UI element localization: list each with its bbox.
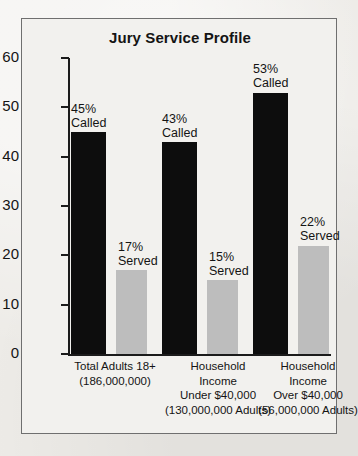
y-tick-label: 50 <box>0 97 19 114</box>
bar-served-group-3[interactable] <box>298 246 329 355</box>
category-label-group-1: Total Adults 18+ (186,000,000) <box>60 359 170 388</box>
y-tick-label: 40 <box>0 147 19 164</box>
bar-value-label-served-group-1: 17% Served <box>118 240 158 268</box>
y-tick-label: 10 <box>0 295 19 312</box>
y-tick-mark <box>61 156 69 158</box>
y-tick-label: 60 <box>0 48 19 65</box>
y-tick-label: 30 <box>0 196 19 213</box>
chart-title: Jury Service Profile <box>22 29 338 46</box>
y-tick-mark <box>61 254 69 256</box>
chart-frame: Jury Service Profile 60 50 40 30 20 10 <box>21 18 337 434</box>
bar-served-group-1[interactable] <box>116 270 147 354</box>
bar-value-label-called-group-1: 45% Called <box>71 102 106 130</box>
bar-value-label-called-group-2: 43% Called <box>162 112 197 140</box>
bar-value-label-served-group-3: 22% Served <box>300 215 340 243</box>
bar-called-group-3[interactable] <box>253 93 288 355</box>
y-tick-label: 20 <box>0 245 19 262</box>
bar-value-label-served-group-2: 15% Served <box>209 250 249 278</box>
y-tick-mark <box>61 353 69 355</box>
y-tick-mark <box>61 304 69 306</box>
plot-area: 45% Called 17% Served 43% Called 15% Ser… <box>69 58 331 354</box>
y-tick-mark <box>61 57 69 59</box>
bar-called-group-1[interactable] <box>71 132 106 354</box>
x-axis-line <box>68 354 331 356</box>
y-tick-label: 0 <box>0 344 19 361</box>
bar-served-group-2[interactable] <box>207 280 238 354</box>
bar-value-label-called-group-3: 53% Called <box>253 62 288 90</box>
category-label-group-3: Household Income Over $40,000 (56,000,00… <box>250 359 358 417</box>
y-tick-mark <box>61 205 69 207</box>
y-tick-mark <box>61 106 69 108</box>
bar-called-group-2[interactable] <box>162 142 197 354</box>
scanned-page: Jury Service Profile 60 50 40 30 20 10 <box>0 0 358 456</box>
